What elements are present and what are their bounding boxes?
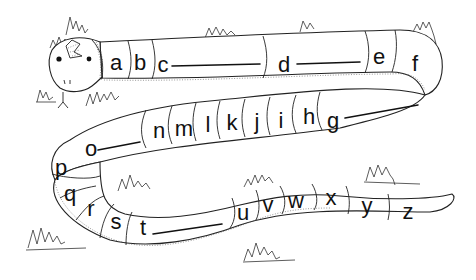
letter-q: q <box>64 181 76 206</box>
letter-y: y <box>362 193 373 218</box>
letter-n: n <box>153 118 165 143</box>
snake-body-middle <box>52 89 425 180</box>
letter-a: a <box>110 50 123 75</box>
letter-f: f <box>412 51 419 76</box>
letter-k: k <box>227 110 239 135</box>
grass-icon <box>244 175 273 187</box>
grass-icon <box>364 165 420 185</box>
grass-icon <box>36 90 56 102</box>
snake-head <box>49 38 103 108</box>
eye-icon <box>87 57 92 62</box>
letter-w: w <box>287 188 304 213</box>
letter-c: c <box>158 52 169 77</box>
letter-l: l <box>206 112 211 137</box>
grass-icon <box>86 92 119 106</box>
letter-h: h <box>303 104 315 129</box>
grass-icon <box>26 228 86 250</box>
letter-i: i <box>279 108 284 133</box>
eye-icon <box>56 56 61 61</box>
grass-icon <box>118 175 150 191</box>
letter-e: e <box>373 44 385 69</box>
grass-icon <box>66 17 88 35</box>
letter-r: r <box>87 196 94 221</box>
letter-v: v <box>263 192 274 217</box>
letter-b: b <box>134 50 146 75</box>
letter-z: z <box>403 199 414 224</box>
letter-p: p <box>55 155 67 180</box>
letter-t: t <box>140 215 146 240</box>
letter-j: j <box>254 109 260 134</box>
grass-icon <box>243 243 295 262</box>
grass-icon <box>300 21 314 32</box>
letter-m: m <box>175 116 193 141</box>
letter-u: u <box>237 200 249 225</box>
letter-s: s <box>111 209 122 234</box>
snake-alphabet-illustration: abcdefghijklmnopqrstuvwxyz <box>0 0 476 280</box>
letter-g: g <box>327 108 339 133</box>
letter-o: o <box>85 136 97 161</box>
letter-d: d <box>278 52 290 77</box>
snake-body-upper <box>100 30 442 95</box>
letter-x: x <box>326 185 337 210</box>
forked-tongue-icon <box>58 92 68 108</box>
